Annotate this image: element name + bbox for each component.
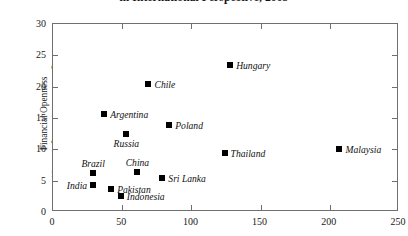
data-point-marker — [336, 146, 342, 152]
y-tick-mark-right — [392, 149, 397, 150]
data-point-marker — [90, 170, 96, 176]
data-point-marker — [222, 150, 228, 156]
data-point-label: Thailand — [231, 148, 266, 159]
x-tick-mark — [330, 24, 331, 29]
y-tick-label: 20 — [26, 80, 46, 91]
y-tick-mark-right — [392, 55, 397, 56]
data-point-marker — [134, 169, 140, 175]
data-point-label: China — [126, 157, 149, 168]
data-point-label: Argentina — [110, 109, 148, 120]
y-tick-label: 15 — [26, 112, 46, 123]
y-tick-mark-right — [392, 87, 397, 88]
data-point-label: Brazil — [81, 158, 104, 169]
y-tick-mark — [53, 118, 58, 119]
y-tick-label: 0 — [26, 206, 46, 217]
data-point-marker — [227, 62, 233, 68]
x-tick-mark — [261, 24, 262, 29]
data-point-marker — [108, 186, 114, 192]
data-point-marker — [145, 81, 151, 87]
data-point-label: Chile — [154, 79, 175, 90]
data-point-label: India — [67, 180, 87, 191]
y-tick-mark — [53, 181, 58, 182]
x-tick-mark-bottom — [261, 205, 262, 210]
y-tick-label: 25 — [26, 49, 46, 60]
chart-figure: in International Perspective, 2005 Finan… — [0, 0, 408, 236]
x-tick-label: 100 — [183, 216, 198, 227]
x-tick-label: 150 — [252, 216, 267, 227]
y-tick-mark — [53, 55, 58, 56]
data-point-label: Malaysia — [345, 144, 381, 155]
y-tick-label: 10 — [26, 143, 46, 154]
y-tick-mark-right — [392, 118, 397, 119]
x-tick-label: 0 — [50, 216, 55, 227]
data-point-marker — [123, 131, 129, 137]
x-tick-mark-bottom — [191, 205, 192, 210]
y-tick-mark — [53, 149, 58, 150]
x-tick-mark — [122, 24, 123, 29]
data-point-marker — [101, 111, 107, 117]
data-point-marker — [118, 193, 124, 199]
x-tick-label: 50 — [116, 216, 126, 227]
y-tick-mark — [53, 87, 58, 88]
plot-area: HungaryChileArgentinaPolandRussiaMalaysi… — [52, 23, 398, 211]
x-tick-label: 200 — [321, 216, 336, 227]
x-tick-mark — [191, 24, 192, 29]
data-point-marker — [159, 175, 165, 181]
data-point-label: Indonesia — [127, 191, 165, 202]
x-tick-mark-bottom — [330, 205, 331, 210]
x-tick-mark-bottom — [122, 205, 123, 210]
data-point-marker — [166, 122, 172, 128]
chart-title: in International Perspective, 2005 — [0, 0, 408, 3]
x-tick-label: 250 — [391, 216, 406, 227]
data-point-label: Poland — [175, 119, 203, 130]
y-tick-mark-right — [392, 181, 397, 182]
data-point-label: Sri Lanka — [168, 173, 206, 184]
y-tick-label: 30 — [26, 18, 46, 29]
data-point-label: Hungary — [236, 59, 270, 70]
data-point-label: Russia — [114, 138, 140, 149]
y-tick-label: 5 — [26, 174, 46, 185]
data-point-marker — [90, 182, 96, 188]
